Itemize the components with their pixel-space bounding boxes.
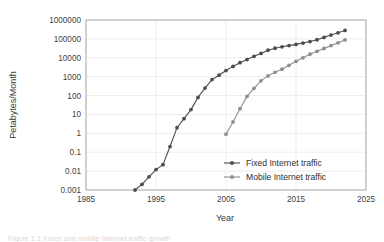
x-tick-label: 2005	[217, 195, 236, 204]
legend-item-2[interactable]: Mobile Internet traffic	[224, 172, 327, 182]
legend-label: Mobile Internet traffic	[246, 172, 327, 182]
data-point	[322, 47, 326, 51]
data-point	[315, 38, 319, 42]
y-tick-label: 1000	[63, 73, 82, 82]
data-point	[280, 67, 284, 71]
data-point	[294, 43, 298, 47]
data-point	[259, 52, 263, 56]
legend-item-1[interactable]: Fixed Internet traffic	[224, 158, 322, 168]
data-point	[231, 120, 235, 124]
figure-caption: Figure 1.1 Fixed and mobile Internet tra…	[8, 234, 376, 242]
legend-label: Fixed Internet traffic	[246, 158, 322, 168]
data-point	[189, 108, 193, 112]
figure-container: 0.0010.010.11101001000100001000001000000…	[0, 0, 384, 242]
data-point	[196, 95, 200, 99]
data-point	[252, 86, 256, 90]
y-tick-label: 1	[76, 129, 81, 138]
data-point	[343, 29, 347, 33]
data-point	[252, 54, 256, 58]
data-point	[294, 59, 298, 63]
data-point	[224, 69, 228, 73]
data-point	[203, 86, 207, 90]
x-tick-label: 2025	[357, 195, 376, 204]
data-point	[133, 188, 137, 192]
data-point	[266, 48, 270, 52]
data-point	[273, 70, 277, 74]
x-axis-tick-labels: 19851995200520152025	[77, 195, 376, 204]
data-point	[343, 38, 347, 42]
y-tick-label: 10000	[58, 54, 81, 63]
data-point	[224, 132, 228, 136]
y-tick-label: 100000	[54, 35, 82, 44]
data-point	[308, 52, 312, 56]
data-point	[168, 145, 172, 149]
data-point	[182, 117, 186, 121]
data-point	[329, 44, 333, 48]
y-tick-label: 0.001	[61, 186, 82, 195]
data-point	[315, 49, 319, 53]
data-point	[287, 44, 291, 48]
y-axis-title: Petabytes/Month	[8, 71, 18, 139]
data-point	[245, 95, 249, 99]
data-point	[245, 58, 249, 62]
data-point	[175, 126, 179, 130]
data-point	[329, 33, 333, 37]
gridlines-vertical	[86, 20, 366, 190]
data-point	[322, 35, 326, 39]
data-point	[238, 107, 242, 111]
data-point	[301, 56, 305, 60]
y-tick-label: 1000000	[49, 16, 81, 25]
y-tick-label: 0.1	[70, 148, 82, 157]
data-point	[147, 175, 151, 179]
y-tick-label: 10	[72, 110, 82, 119]
data-point	[280, 45, 284, 49]
data-point	[238, 61, 242, 65]
data-point	[210, 78, 214, 82]
legend-marker	[230, 175, 234, 179]
data-point	[336, 31, 340, 35]
data-point	[259, 79, 263, 83]
x-tick-label: 1995	[147, 195, 166, 204]
y-tick-label: 100	[67, 92, 81, 101]
legend-marker	[230, 161, 234, 165]
x-tick-label: 1985	[77, 195, 96, 204]
x-tick-label: 2015	[287, 195, 306, 204]
internet-traffic-line-chart: 0.0010.010.11101001000100001000001000000…	[0, 0, 384, 242]
data-point	[217, 73, 221, 77]
y-tick-label: 0.01	[65, 167, 81, 176]
chart-legend: Fixed Internet trafficMobile Internet tr…	[224, 158, 327, 182]
data-point	[301, 41, 305, 45]
data-point	[140, 182, 144, 186]
y-axis-tick-labels: 0.0010.010.11101001000100001000001000000	[49, 16, 81, 195]
data-point	[266, 74, 270, 78]
data-point	[273, 46, 277, 50]
data-point	[287, 63, 291, 67]
data-series-2	[224, 38, 347, 136]
x-axis-title: Year	[216, 213, 234, 223]
data-point	[308, 40, 312, 44]
data-point	[161, 163, 165, 167]
data-point	[231, 64, 235, 68]
data-point	[336, 41, 340, 45]
data-point	[154, 168, 158, 172]
